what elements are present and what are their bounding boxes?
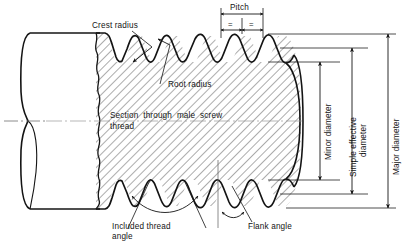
simple-effective-diameter-label-line2: diameter <box>359 124 369 157</box>
flank-angle-label: Flank angle <box>248 222 292 232</box>
pitch-label: Pitch <box>230 3 249 13</box>
half-pitch-right-mark: = <box>249 20 254 30</box>
simple-effective-diameter-label-line1: Simple effective <box>349 117 359 177</box>
included-thread-angle-label-line2: angle <box>112 232 133 242</box>
crest-radius-label: Crest radius <box>92 21 138 31</box>
included-thread-angle-label-line1: Included thread <box>112 222 171 232</box>
section-caption-line1: Section through male screw <box>110 111 222 121</box>
half-pitch-left-mark: = <box>228 20 233 30</box>
section-caption-line2: thread <box>110 122 134 132</box>
major-diameter-label: Major diameter <box>392 118 402 175</box>
minor-diameter-label: Minor diameter <box>324 103 334 160</box>
diagram-canvas <box>0 0 403 243</box>
root-radius-label: Root radius <box>168 80 212 90</box>
thread-diagram: Crest radius Root radius Section through… <box>0 0 403 243</box>
